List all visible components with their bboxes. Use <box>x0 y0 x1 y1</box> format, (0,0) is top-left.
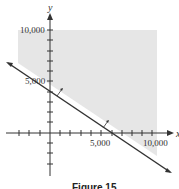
y-tick-label-10000: 10,000 <box>20 25 45 35</box>
x-tick-label-5000: 5,000 <box>90 138 111 148</box>
x-tick-label-10000: 10,000 <box>143 138 168 148</box>
y-axis-label: y <box>47 2 53 13</box>
figure-caption: Figure 15 <box>72 182 117 189</box>
shaded-region <box>18 30 157 156</box>
x-axis-label: x <box>175 128 179 139</box>
y-tick-label-5000: 5,000 <box>25 76 46 86</box>
y-axis-arrow-icon <box>47 13 53 20</box>
graph-canvas: y x 10,000 5,000 5,000 10,000 Figure 15 <box>0 0 179 189</box>
x-axis-arrow-icon <box>167 130 174 136</box>
